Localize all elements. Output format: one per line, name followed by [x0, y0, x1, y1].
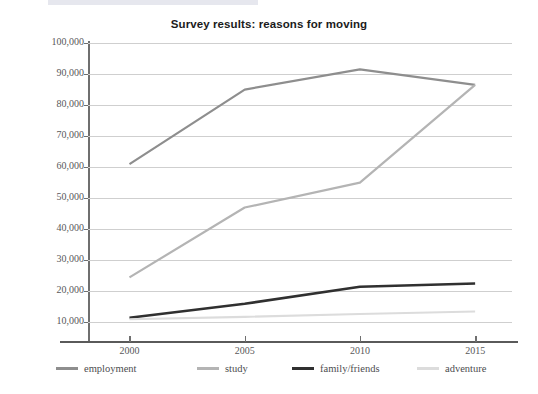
legend-swatch-icon [56, 367, 78, 370]
series-lines [88, 43, 512, 341]
y-tick-label: 70,000 [20, 129, 84, 140]
y-tick-label: 80,000 [20, 98, 84, 109]
x-tick-label: 2000 [99, 345, 159, 356]
legend-swatch-icon [417, 367, 439, 370]
legend-label: employment [84, 363, 137, 374]
x-tick-label: 2005 [215, 345, 275, 356]
legend-item-adventure[interactable]: adventure [417, 363, 486, 374]
x-tick-mark [129, 336, 130, 342]
y-tick-label: 90,000 [20, 67, 84, 78]
y-tick-label: 60,000 [20, 160, 84, 171]
y-tick-label: 10,000 [20, 315, 84, 326]
legend-item-family-friends[interactable]: family/friends [292, 363, 379, 374]
legend-swatch-icon [292, 367, 314, 370]
legend-label: adventure [445, 363, 486, 374]
x-tick-mark [475, 336, 476, 342]
y-tick-label: 20,000 [20, 284, 84, 295]
y-tick-label: 100,000 [20, 36, 84, 47]
y-tick-label: 30,000 [20, 253, 84, 264]
series-line-study [129, 85, 475, 277]
chart-title: Survey results: reasons for moving [0, 18, 538, 30]
x-tick-label: 2015 [445, 345, 505, 356]
legend-label: family/friends [320, 363, 379, 374]
legend-item-employment[interactable]: employment [56, 363, 137, 374]
legend-item-study[interactable]: study [197, 363, 248, 374]
legend-label: study [225, 363, 248, 374]
y-tick-label: 50,000 [20, 191, 84, 202]
chart-legend: employmentstudyfamily/friendsadventure [0, 363, 538, 387]
legend-swatch-icon [197, 367, 219, 370]
x-tick-mark [245, 336, 246, 342]
series-line-employment [129, 69, 475, 164]
plot-area [88, 43, 512, 341]
x-tick-label: 2010 [330, 345, 390, 356]
line-chart: Survey results: reasons for moving 100,0… [0, 0, 538, 394]
x-tick-mark [360, 336, 361, 342]
y-tick-label: 40,000 [20, 222, 84, 233]
